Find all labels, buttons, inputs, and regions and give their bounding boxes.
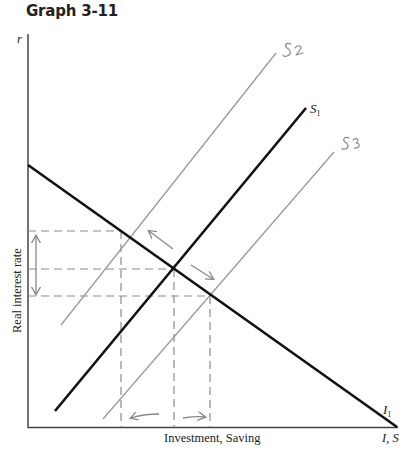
curve-s1 — [55, 108, 306, 411]
label-i1: I1 — [382, 402, 391, 419]
arrow-up-left — [149, 231, 173, 249]
arrow-right-x — [183, 417, 205, 418]
arrow-down-right — [191, 265, 213, 279]
curve-s2 — [61, 53, 276, 325]
curve-s3 — [103, 152, 334, 419]
shift-arrows — [36, 231, 213, 418]
label-s3 — [342, 137, 359, 149]
y-axis-symbol: r — [17, 31, 23, 46]
x-axis-label: Investment, Saving — [164, 431, 261, 445]
arrow-left-x — [131, 414, 159, 418]
label-s1: S1 — [310, 101, 321, 118]
y-axis-label: Real interest rate — [10, 248, 24, 333]
dashed-guides — [28, 231, 210, 427]
x-axis-symbol: I, S — [381, 431, 399, 445]
chart-canvas: r Real interest rate Investment, Saving … — [0, 0, 412, 456]
label-s2 — [283, 43, 303, 56]
